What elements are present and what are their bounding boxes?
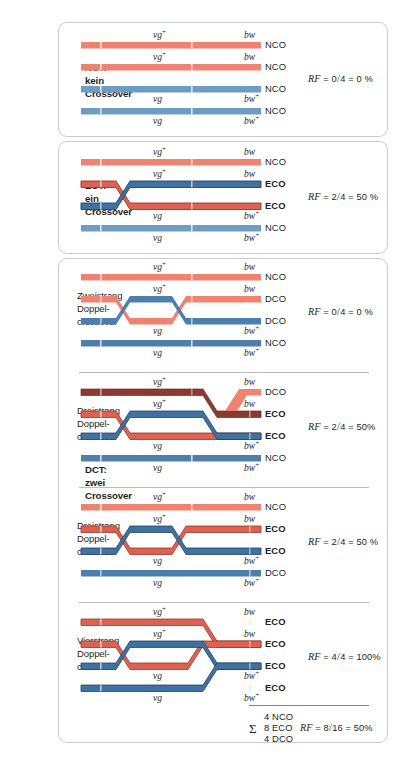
rf-equals-2: = [348, 307, 354, 317]
rf-denominator: 4 [340, 74, 345, 84]
rf-equals: = [323, 307, 329, 317]
rf-percent: 50% [357, 422, 376, 432]
rf-equals: = [323, 192, 329, 202]
outcome-label: NCO [265, 105, 286, 116]
rf-denominator: 4 [340, 652, 345, 662]
rf-equals: = [315, 723, 321, 733]
summary-line: 4 DCO [264, 733, 293, 744]
outcome-label: ECO [265, 200, 286, 211]
rf-prefix: RF [308, 421, 321, 432]
rf-value-ect: RF = 2/4 = 50 % [308, 191, 378, 202]
rf-equals: = [323, 422, 329, 432]
rf-denominator: 4 [340, 192, 345, 202]
section-divider [79, 372, 369, 373]
rf-value-dreistrang-a: RF = 2/4 = 50% [308, 421, 375, 432]
rf-numerator: 2 [331, 537, 336, 547]
rf-percent: 0 % [357, 307, 373, 317]
outcome-label: ECO [265, 545, 286, 556]
rf-prefix: RF [308, 191, 321, 202]
rf-numerator: 0 [331, 74, 336, 84]
panel-dct: DCT: zwei Crossover Zweistrang Doppel- c… [58, 258, 388, 743]
rf-equals-2: = [348, 652, 354, 662]
rf-prefix: RF [308, 73, 321, 84]
rf-numerator: 2 [331, 422, 336, 432]
outcome-label: NCO [265, 501, 286, 512]
rf-value-vierstrang: RF = 4/4 = 100% [308, 651, 381, 662]
rf-value-summary: RF = 8/16 = 50% [300, 722, 373, 733]
rf-prefix: RF [308, 651, 321, 662]
rf-value-nct: RF = 0/4 = 0 % [308, 73, 373, 84]
rf-denominator: 4 [340, 307, 345, 317]
rf-value-dreistrang-b: RF = 2/4 = 50 % [308, 536, 378, 547]
rf-percent: 50 % [357, 192, 379, 202]
rf-numerator: 2 [331, 192, 336, 202]
rf-denominator: 16 [332, 723, 343, 733]
rf-equals-2: = [348, 422, 354, 432]
outcome-label: ECO [265, 408, 286, 419]
rf-denominator: 4 [340, 422, 345, 432]
outcome-label: NCO [265, 452, 286, 463]
summary-line: 8 ECO [264, 722, 293, 733]
outcome-label: NCO [265, 337, 286, 348]
rf-percent: 50% [354, 723, 373, 733]
rf-equals-2: = [346, 723, 352, 733]
sigma-symbol: Σ [249, 721, 257, 737]
rf-numerator: 8 [323, 723, 328, 733]
outcome-label: NCO [265, 83, 286, 94]
rf-value-zweistrang: RF = 0/4 = 0 % [308, 306, 373, 317]
outcome-label: NCO [265, 271, 286, 282]
outcome-label: NCO [265, 222, 286, 233]
panel-ect: ECT: ein Crossover vg+ bw vg+ bw vg bw+ … [58, 141, 388, 254]
summary-line: 4 NCO [264, 711, 293, 722]
rf-prefix: RF [308, 536, 321, 547]
outcome-label: NCO [265, 61, 286, 72]
rf-percent: 50 % [357, 537, 379, 547]
rf-numerator: 0 [331, 307, 336, 317]
outcome-label: ECO [265, 616, 286, 627]
figure-root: NCT: kein Crossover vg+ bw vg+ bw vg bw+… [0, 0, 397, 767]
outcome-label: NCO [265, 39, 286, 50]
outcome-label: DCO [265, 293, 286, 304]
outcome-label: ECO [265, 682, 286, 693]
outcome-label: ECO [265, 638, 286, 649]
rf-equals: = [323, 652, 329, 662]
outcome-label: DCO [265, 567, 286, 578]
rf-equals: = [323, 74, 329, 84]
rf-prefix: RF [300, 722, 313, 733]
summary-rule [249, 705, 369, 706]
outcome-label: ECO [265, 178, 286, 189]
rf-prefix: RF [308, 306, 321, 317]
outcome-label: ECO [265, 523, 286, 534]
outcome-label: ECO [265, 430, 286, 441]
rf-equals-2: = [348, 537, 354, 547]
outcome-label: NCO [265, 156, 286, 167]
rf-percent: 0 % [357, 74, 373, 84]
rf-numerator: 4 [331, 652, 336, 662]
rf-percent: 100% [357, 652, 381, 662]
rf-denominator: 4 [340, 537, 345, 547]
outcome-label: ECO [265, 660, 286, 671]
rf-equals-2: = [348, 192, 354, 202]
outcome-label: DCO [265, 386, 286, 397]
rf-equals: = [323, 537, 329, 547]
panel-nct: NCT: kein Crossover vg+ bw vg+ bw vg bw+… [58, 22, 388, 137]
rf-equals-2: = [348, 74, 354, 84]
outcome-label: DCO [265, 315, 286, 326]
